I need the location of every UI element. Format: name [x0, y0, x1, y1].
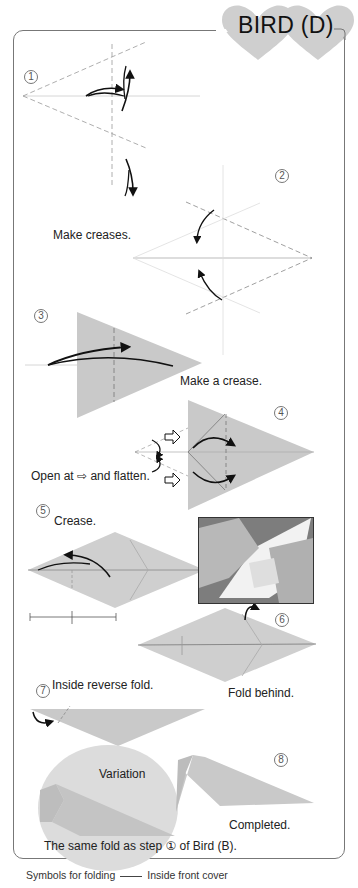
step-8-caption: Completed.	[229, 818, 290, 832]
step-8-diagram	[176, 755, 314, 812]
step-number-8: 8	[274, 753, 288, 767]
step-number-3: 3	[34, 309, 48, 323]
step-5-caption: Crease.	[54, 514, 96, 528]
step-number-5: 5	[36, 504, 50, 518]
step-number-4: 4	[274, 406, 288, 420]
open-arrow-icon	[165, 430, 180, 487]
step-number-2: 2	[275, 169, 289, 183]
footer-symbols-label: Symbols for folding	[26, 869, 115, 881]
step-5-diagram	[28, 532, 205, 624]
step-4-caption: Open at ⇨ and flatten.	[31, 469, 150, 483]
footer-note: Symbols for foldingInside front cover	[26, 869, 228, 881]
footer-reference[interactable]: Inside front cover	[147, 869, 228, 881]
variation-label: Variation	[99, 767, 145, 781]
page-title: BIRD (D)	[238, 12, 334, 39]
step-3-caption: Make a crease.	[180, 374, 262, 388]
step-1-diagram	[23, 42, 200, 196]
variation-note: The same fold as step ① of Bird (B).	[44, 839, 237, 853]
step-1-caption: Make creases.	[53, 228, 131, 242]
step-3-diagram	[25, 312, 202, 418]
photo-illustration	[199, 518, 313, 603]
step-number-6: 6	[275, 613, 289, 627]
folding-diagrams	[0, 0, 358, 888]
length-scale	[30, 611, 116, 624]
step-7-diagram	[30, 706, 205, 746]
step-2-diagram	[133, 165, 312, 355]
footer-dash	[120, 876, 142, 877]
step-number-7: 7	[36, 684, 50, 698]
step-number-1: 1	[24, 70, 38, 84]
step-4-diagram	[135, 400, 314, 510]
step-6-diagram	[138, 607, 316, 682]
step-7-caption: Inside reverse fold.	[52, 678, 153, 692]
step-photo-hands	[198, 517, 314, 604]
step-6-caption: Fold behind.	[228, 686, 294, 700]
